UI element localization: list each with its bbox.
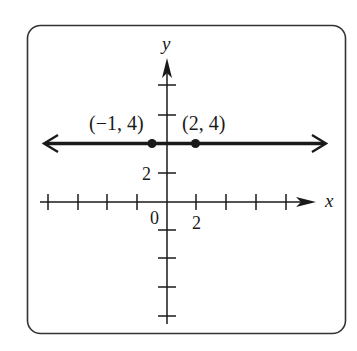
line-y-equals-4 — [44, 135, 326, 152]
point-neg1-4 — [148, 139, 157, 148]
point-2-4 — [191, 139, 200, 148]
chart-frame — [28, 26, 346, 334]
y-tick-label-2: 2 — [142, 164, 151, 184]
point-label-2-4: (2, 4) — [182, 112, 225, 135]
chart-figure: x 0 2 y 2 (−1, 4) (2, 4) — [0, 0, 357, 351]
x-tick-label-2: 2 — [192, 213, 201, 233]
x-axis: x 0 2 — [40, 190, 334, 233]
y-axis: y 2 — [142, 33, 176, 324]
x-tick-label-0: 0 — [150, 208, 159, 228]
point-label-neg1-4: (−1, 4) — [89, 112, 144, 135]
y-axis-title: y — [160, 33, 171, 54]
x-axis-title: x — [324, 190, 334, 211]
